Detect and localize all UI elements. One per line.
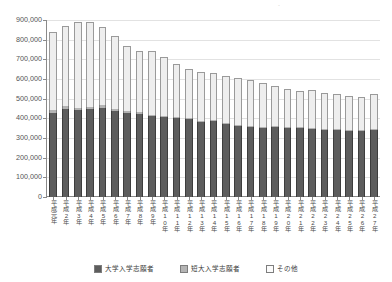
bar-segment-other <box>74 22 81 108</box>
bar-segment-university <box>284 128 291 197</box>
x-axis-tick-label: 平成15年 <box>223 200 230 232</box>
bar-segment-university <box>358 131 365 197</box>
bar-segment-university <box>234 126 241 197</box>
bar-segment-university <box>210 121 217 197</box>
bar-segment-other <box>284 89 291 127</box>
x-axis-tick-label: 平成22年 <box>309 200 316 232</box>
x-axis-tick-label: 平成13年 <box>198 200 205 232</box>
bar-stack[interactable] <box>173 64 180 197</box>
legend-swatch-junior <box>180 265 188 273</box>
bar-stack[interactable] <box>234 78 241 197</box>
chart-legend: 大学入学志願者短大入学志願者その他 <box>0 261 392 277</box>
bar-segment-university <box>345 131 352 197</box>
y-axis-tick-label: 800,000 <box>16 36 42 43</box>
bar-stack[interactable] <box>259 83 266 197</box>
x-axis-tick-label: 平成3年 <box>75 200 82 225</box>
bar-segment-university <box>259 128 266 197</box>
legend-swatch-other <box>266 265 274 273</box>
y-axis-tick <box>43 197 47 198</box>
x-axis-labels: 平成元年平成2年平成3年平成4年平成5年平成6年平成7年平成8年平成9年平成10… <box>47 200 380 256</box>
bar-stack[interactable] <box>358 97 365 197</box>
bar-segment-other <box>308 90 315 127</box>
x-axis-tick-label: 平成6年 <box>112 200 119 225</box>
bar-stack[interactable] <box>49 32 56 197</box>
legend-item[interactable]: その他 <box>266 265 298 273</box>
bar-stack[interactable] <box>136 51 143 197</box>
bar-segment-other <box>222 76 229 123</box>
bar-stack[interactable] <box>271 86 278 197</box>
legend-label: その他 <box>277 265 298 273</box>
y-axis-tick-label: 700,000 <box>16 56 42 63</box>
x-axis-tick-label: 平成7年 <box>124 200 131 225</box>
bar-stack[interactable] <box>370 94 377 197</box>
bar-segment-university <box>160 117 167 197</box>
x-axis-tick-label: 平成16年 <box>235 200 242 232</box>
bar-stack[interactable] <box>74 22 81 197</box>
bar-segment-other <box>271 86 278 126</box>
bar-stack[interactable] <box>333 94 340 197</box>
bar-segment-university <box>308 129 315 197</box>
bar-segment-other <box>370 94 377 129</box>
bar-segment-other <box>62 26 69 106</box>
legend-item[interactable]: 大学入学志願者 <box>94 265 154 273</box>
x-axis-tick-label: 平成9年 <box>149 200 156 225</box>
bar-segment-university <box>136 114 143 197</box>
bar-stack[interactable] <box>160 57 167 197</box>
bar-segment-other <box>136 51 143 112</box>
bar-segment-other <box>111 36 118 109</box>
bar-segment-other <box>321 93 328 128</box>
y-axis-tick-label: 500,000 <box>16 95 42 102</box>
y-axis-tick-label: 100,000 <box>16 174 42 181</box>
bar-segment-other <box>210 73 217 120</box>
bar-stack[interactable] <box>321 93 328 197</box>
bar-stack[interactable] <box>222 76 229 197</box>
bar-segment-other <box>247 80 254 126</box>
x-axis-tick-label: 平成25年 <box>346 200 353 232</box>
legend-item[interactable]: 短大入学志願者 <box>180 265 240 273</box>
bar-segment-university <box>197 122 204 197</box>
bar-segment-other <box>333 94 340 129</box>
bar-stack[interactable] <box>62 26 69 197</box>
y-axis-tick-label: 900,000 <box>16 16 42 23</box>
bar-stack[interactable] <box>123 46 130 197</box>
bar-segment-university <box>99 108 106 197</box>
x-axis-tick-label: 平成10年 <box>161 200 168 232</box>
stacked-bar-chart: ` 0100,000200,000300,000400,000500,00060… <box>0 0 392 282</box>
bar-stack[interactable] <box>284 89 291 197</box>
bar-stack[interactable] <box>247 80 254 197</box>
bar-segment-university <box>370 130 377 197</box>
x-axis-tick-label: 平成4年 <box>87 200 94 225</box>
bar-stack[interactable] <box>345 96 352 197</box>
bar-segment-other <box>148 51 155 115</box>
x-axis-tick-label: 平成14年 <box>210 200 217 232</box>
x-axis-tick-label: 平成8年 <box>136 200 143 225</box>
bar-stack[interactable] <box>197 72 204 197</box>
bar-segment-other <box>234 78 241 125</box>
bar-stack[interactable] <box>148 51 155 197</box>
bar-segment-university <box>148 116 155 197</box>
bar-segment-other <box>358 97 365 130</box>
x-axis-tick-label: 平成21年 <box>297 200 304 232</box>
y-axis-tick-label: 300,000 <box>16 134 42 141</box>
bar-segment-university <box>86 109 93 197</box>
legend-label: 短大入学志願者 <box>191 265 240 273</box>
bar-segment-university <box>74 110 81 197</box>
bar-segment-other <box>49 32 56 111</box>
bar-stack[interactable] <box>111 36 118 197</box>
bar-segment-university <box>111 111 118 197</box>
bar-stack[interactable] <box>185 69 192 197</box>
bar-segment-university <box>271 127 278 197</box>
bar-stack[interactable] <box>296 91 303 197</box>
x-axis-tick-label: 平成27年 <box>371 200 378 232</box>
x-axis-tick-label: 平成5年 <box>99 200 106 225</box>
bar-stack[interactable] <box>210 73 217 197</box>
x-axis-tick-label: 平成20年 <box>284 200 291 232</box>
stray-artifact: ` <box>278 4 283 9</box>
bar-segment-university <box>247 127 254 197</box>
bar-segment-university <box>123 113 130 197</box>
bar-stack[interactable] <box>99 27 106 197</box>
bar-stack[interactable] <box>86 22 93 197</box>
bar-segment-other <box>86 22 93 107</box>
y-axis-tick-label: 600,000 <box>16 75 42 82</box>
bar-stack[interactable] <box>308 90 315 197</box>
